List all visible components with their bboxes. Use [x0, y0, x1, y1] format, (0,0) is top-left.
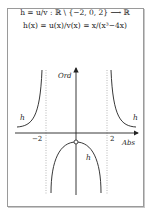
tick-label-neg2: −2 — [32, 135, 42, 143]
curve-label-left: h — [20, 113, 25, 122]
curve-label-right: h — [133, 113, 138, 122]
y-axis-label: Ord — [58, 72, 72, 80]
x-axis-label: Abs — [121, 139, 136, 147]
function-graph: Ord Abs −2 2 h h h — [0, 0, 150, 214]
tick-label-pos2: 2 — [110, 135, 114, 143]
curve-label-middle: h — [86, 153, 91, 162]
hole-point — [74, 140, 78, 144]
